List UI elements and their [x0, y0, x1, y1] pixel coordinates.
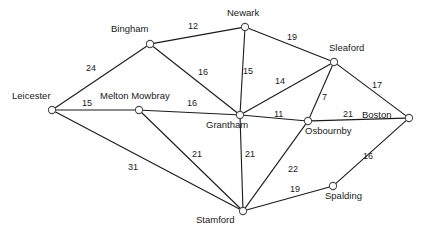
node-label-stamford: Stamford: [196, 215, 235, 225]
node-label-boston: Boston: [362, 110, 392, 120]
edge-weight-label: 11: [274, 110, 283, 119]
graph-node-melton_mowbray[interactable]: [135, 106, 142, 113]
graph-edge: [309, 65, 332, 117]
node-label-grantham: Grantham: [206, 120, 248, 130]
edge-weight-label: 7: [322, 93, 327, 102]
edge-weight-label: 24: [86, 64, 96, 73]
edge-weight-label: 31: [128, 163, 138, 172]
node-label-spalding: Spalding: [325, 191, 362, 201]
edge-weight-label: 21: [192, 150, 202, 159]
graph-diagram: 24153112161621151914717112121221619Leice…: [0, 0, 423, 235]
graph-edge: [243, 64, 331, 113]
graph-node-leicester[interactable]: [48, 106, 55, 113]
node-label-osbournby: Osbournby: [305, 126, 351, 136]
edge-weight-label: 19: [287, 33, 297, 42]
graph-edge: [246, 187, 329, 210]
edge-weight-label: 16: [363, 152, 373, 161]
edge-weight-label: 22: [288, 165, 298, 174]
graph-edge: [143, 110, 237, 115]
edge-weight-label: 21: [245, 150, 255, 159]
node-label-melton_mowbray: Melton Mowbray: [100, 91, 170, 101]
graph-node-stamford[interactable]: [239, 207, 246, 214]
graph-node-newark[interactable]: [241, 23, 248, 30]
node-label-newark: Newark: [227, 8, 259, 18]
edge-weight-label: 12: [188, 22, 198, 31]
edge-weight-label: 16: [198, 68, 208, 77]
graph-node-sleaford[interactable]: [330, 58, 337, 65]
graph-node-bingham[interactable]: [146, 40, 153, 47]
edge-weight-label: 21: [343, 110, 353, 119]
graph-node-spalding[interactable]: [329, 182, 336, 189]
edge-weight-label: 19: [290, 185, 300, 194]
edge-weight-label: 15: [243, 67, 253, 76]
node-label-leicester: Leicester: [12, 91, 51, 101]
graph-edge: [240, 119, 243, 208]
graph-node-grantham[interactable]: [236, 111, 243, 118]
node-label-sleaford: Sleaford: [329, 43, 364, 53]
graph-node-osbournby[interactable]: [304, 117, 311, 124]
graph-node-boston[interactable]: [405, 114, 412, 121]
edge-weight-label: 14: [275, 77, 285, 86]
node-label-bingham: Bingham: [111, 24, 149, 34]
edge-weight-label: 17: [372, 81, 382, 90]
edge-weight-label: 16: [187, 99, 197, 108]
edge-weight-label: 15: [82, 99, 92, 108]
